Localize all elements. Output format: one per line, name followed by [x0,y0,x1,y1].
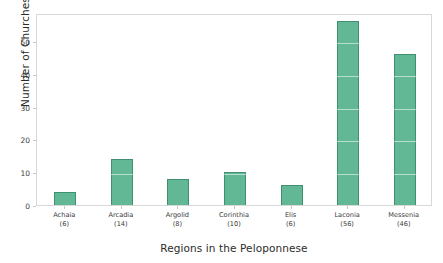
bar-corinthia[interactable] [224,172,246,205]
y-tick-label: 10 [4,169,30,178]
x-axis-title: Regions in the Peloponnese [34,242,434,254]
gridline-y [37,76,431,77]
x-tick-mark [234,206,235,209]
bar-achaia[interactable] [54,192,76,205]
plot-inner [37,15,431,205]
y-tick-label: 0 [4,202,30,211]
bar-laconia[interactable] [337,21,359,205]
gridline-y [37,43,431,44]
y-tick-label: 50 [4,37,30,46]
y-tick-label: 20 [4,136,30,145]
x-tick-count: (46) [364,220,443,229]
gridline-y [37,109,431,110]
y-tick-mark [33,42,36,43]
bar-elis[interactable] [281,185,303,205]
y-tick-label: 40 [4,70,30,79]
bar-argolid[interactable] [167,179,189,205]
x-tick-mark [177,206,178,209]
bar-chart-figure: Number of Churches Regions in the Pelopo… [0,0,443,263]
x-tick-mark [291,206,292,209]
y-tick-mark [33,173,36,174]
x-tick-mark [121,206,122,209]
y-tick-mark [33,75,36,76]
x-tick-mark [64,206,65,209]
y-tick-label: 30 [4,103,30,112]
y-tick-mark [33,108,36,109]
plot-area [36,14,432,206]
x-tick-label-messenia: Messenia(46) [364,211,443,228]
bar-arcadia[interactable] [111,159,133,205]
bar-messenia[interactable] [394,54,416,205]
x-tick-mark [404,206,405,209]
y-tick-mark [33,206,36,207]
y-tick-mark [33,140,36,141]
y-axis-title: Number of Churches [19,0,31,137]
x-tick-mark [347,206,348,209]
x-tick-category: Messenia [364,211,443,220]
gridline-y [37,141,431,142]
